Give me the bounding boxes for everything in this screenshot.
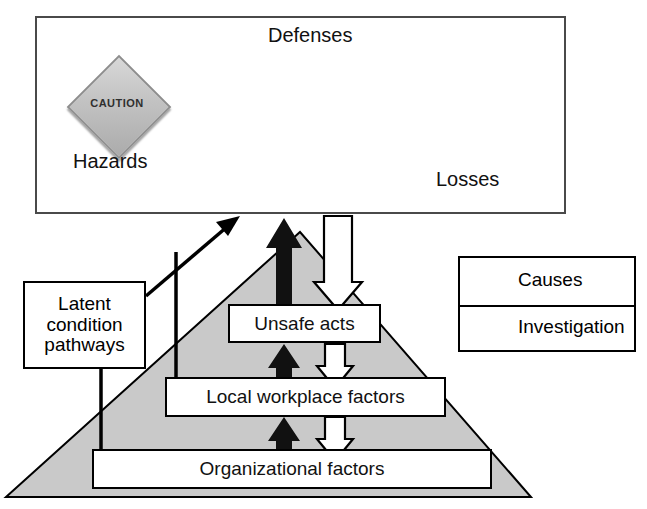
latent-line-2: condition (44, 315, 124, 336)
legend-box: Causes Investigation (458, 256, 636, 352)
legend-label-causes: Causes (518, 269, 582, 291)
pyramid-level-organizational-factors: Organizational factors (92, 449, 492, 489)
latent-line-3: pathways (44, 335, 124, 356)
latent-condition-pathways-label: Latent condition pathways (44, 294, 124, 356)
hazard-caution-sign-icon: CAUTION (68, 56, 166, 154)
legend-row-causes: Causes (460, 258, 634, 305)
diagram-canvas: Defenses CAUTION Hazards Losses Causes I… (0, 0, 647, 509)
losses-label: Losses (436, 168, 499, 191)
latent-line-1: Latent (44, 294, 124, 315)
pyramid-level-unsafe-acts: Unsafe acts (228, 304, 381, 343)
legend-row-investigation: Investigation (460, 305, 634, 352)
legend-label-investigation: Investigation (518, 316, 625, 338)
defenses-label: Defenses (268, 24, 353, 47)
latent-condition-pathways-box: Latent condition pathways (23, 281, 146, 369)
pyramid-level-label: Unsafe acts (254, 313, 354, 335)
latent-to-defenses-arrow (146, 216, 240, 296)
pyramid-level-local-workplace-factors: Local workplace factors (165, 377, 446, 417)
pyramid-level-label: Organizational factors (200, 458, 385, 480)
hazards-label: Hazards (73, 150, 147, 173)
pyramid-level-label: Local workplace factors (206, 386, 405, 408)
caution-sign-text: CAUTION (68, 97, 166, 109)
